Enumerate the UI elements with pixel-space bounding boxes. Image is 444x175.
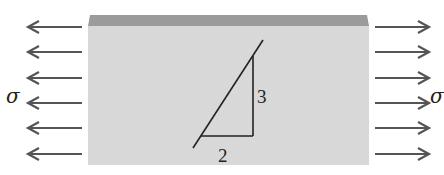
arrow-icon <box>28 148 82 160</box>
arrow-icon <box>28 46 82 58</box>
block-texture <box>88 26 369 165</box>
right-tension-arrows <box>375 21 429 160</box>
arrow-icon <box>375 46 429 58</box>
material-block <box>88 15 369 165</box>
arrow-icon <box>28 122 82 134</box>
arrow-icon <box>375 21 429 33</box>
right-stress-label: σ <box>430 84 444 108</box>
arrow-icon <box>375 72 429 84</box>
run-label: 2 <box>218 145 228 166</box>
left-stress-label: σ <box>6 84 21 108</box>
left-tension-arrows <box>28 21 82 160</box>
arrow-icon <box>28 72 82 84</box>
arrow-icon <box>375 122 429 134</box>
arrow-icon <box>375 97 429 109</box>
arrow-icon <box>28 21 82 33</box>
arrow-icon <box>375 148 429 160</box>
stress-diagram: σ σ 3 2 <box>0 0 444 175</box>
block-top-edge <box>88 15 369 26</box>
rise-label: 3 <box>257 86 267 107</box>
arrow-icon <box>28 97 82 109</box>
